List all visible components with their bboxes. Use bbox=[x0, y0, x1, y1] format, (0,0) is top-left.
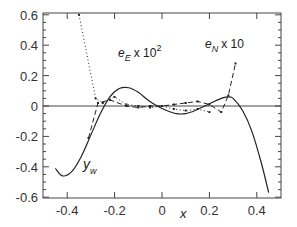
data-point-marker bbox=[109, 99, 111, 101]
x-axis-label: x bbox=[179, 206, 187, 221]
data-point-marker bbox=[220, 111, 222, 113]
data-point-marker bbox=[97, 102, 99, 104]
y-tick-label: -0.6 bbox=[16, 190, 38, 205]
x-tick-label: -0.4 bbox=[56, 203, 78, 218]
x-tick-label: 0.2 bbox=[200, 203, 218, 218]
data-point-marker bbox=[185, 110, 187, 112]
data-point-marker bbox=[197, 108, 199, 110]
data-point-marker bbox=[95, 97, 97, 99]
data-point-marker bbox=[125, 105, 127, 107]
data-point-marker bbox=[88, 137, 90, 139]
y-tick-label: 0.6 bbox=[20, 8, 38, 23]
data-point-marker bbox=[227, 94, 229, 96]
data-point-marker bbox=[149, 105, 151, 107]
legend-eN-label: eNx 10 bbox=[205, 37, 244, 54]
data-point-marker bbox=[161, 105, 163, 107]
y-tick-label: -0.4 bbox=[16, 160, 38, 175]
chart-canvas: -0.4-0.200.20.40.60.40.20-0.2-0.4-0.6 eE… bbox=[0, 0, 297, 227]
data-point-marker bbox=[173, 108, 175, 110]
data-point-marker bbox=[173, 103, 175, 105]
data-point-marker bbox=[197, 100, 199, 102]
x-tick-label: 0 bbox=[158, 203, 165, 218]
data-point-marker bbox=[208, 111, 210, 113]
data-point-marker bbox=[234, 62, 236, 64]
data-point-marker bbox=[208, 103, 210, 105]
x-tick-label: 0.4 bbox=[248, 203, 266, 218]
y-tick-label: 0 bbox=[31, 99, 38, 114]
data-point-marker bbox=[185, 102, 187, 104]
y-tick-label: -0.2 bbox=[16, 129, 38, 144]
y-tick-label: 0.2 bbox=[20, 69, 38, 84]
legend-yw-label: yw bbox=[82, 156, 97, 176]
series-line-y-w bbox=[55, 87, 268, 192]
data-point-marker bbox=[114, 96, 116, 98]
data-point-marker bbox=[78, 14, 80, 16]
legend-eE-label: eEx 102 bbox=[118, 43, 161, 63]
data-point-marker bbox=[137, 107, 139, 109]
y-tick-label: 0.4 bbox=[20, 38, 38, 53]
x-tick-label: -0.2 bbox=[103, 203, 125, 218]
